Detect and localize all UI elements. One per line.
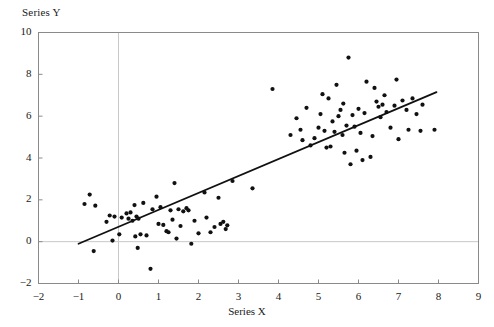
data-point bbox=[382, 93, 386, 97]
data-point bbox=[250, 186, 254, 190]
data-point bbox=[154, 195, 158, 199]
data-point bbox=[328, 144, 332, 148]
data-point bbox=[392, 104, 396, 108]
data-point bbox=[294, 116, 298, 120]
data-point bbox=[318, 112, 322, 116]
data-point bbox=[221, 220, 225, 224]
y-tick-label: 8 bbox=[6, 67, 32, 79]
data-point bbox=[338, 108, 342, 112]
data-point bbox=[288, 133, 292, 137]
x-tick-label: −1 bbox=[66, 290, 92, 302]
data-point bbox=[304, 106, 308, 110]
data-point bbox=[138, 232, 142, 236]
x-tick-label: 9 bbox=[466, 290, 492, 302]
plot-canvas bbox=[0, 0, 494, 327]
data-point bbox=[320, 92, 324, 96]
data-point bbox=[181, 209, 185, 213]
data-point bbox=[352, 125, 356, 129]
data-point bbox=[348, 162, 352, 166]
data-point bbox=[168, 208, 172, 212]
data-point bbox=[189, 242, 193, 246]
data-point bbox=[378, 115, 382, 119]
data-point bbox=[432, 128, 436, 132]
data-point bbox=[158, 205, 162, 209]
data-point bbox=[166, 230, 170, 234]
axis-ticks bbox=[39, 33, 479, 284]
data-point bbox=[404, 108, 408, 112]
data-point bbox=[360, 158, 364, 162]
data-point bbox=[130, 219, 134, 223]
data-point bbox=[346, 56, 350, 60]
data-point bbox=[186, 208, 190, 212]
data-point bbox=[208, 230, 212, 234]
data-point bbox=[330, 119, 334, 123]
data-point bbox=[202, 190, 206, 194]
data-point bbox=[370, 134, 374, 138]
data-point bbox=[364, 80, 368, 84]
data-point bbox=[406, 128, 410, 132]
x-tick-label: 5 bbox=[306, 290, 332, 302]
data-point bbox=[196, 231, 200, 235]
x-tick-label: 6 bbox=[346, 290, 372, 302]
data-point bbox=[172, 181, 176, 185]
x-tick-label: 8 bbox=[426, 290, 452, 302]
data-point bbox=[396, 137, 400, 141]
data-point bbox=[104, 220, 108, 224]
data-point bbox=[362, 111, 366, 115]
data-point bbox=[368, 155, 372, 159]
data-point bbox=[340, 133, 344, 137]
scatter-chart-figure: Series Y Series X −20246810−2−1012345678… bbox=[0, 0, 494, 327]
data-point bbox=[394, 77, 398, 81]
data-point bbox=[326, 96, 330, 100]
data-point bbox=[216, 196, 220, 200]
data-point bbox=[270, 87, 274, 91]
x-tick-label: −2 bbox=[26, 290, 52, 302]
data-point bbox=[178, 224, 182, 228]
data-point bbox=[388, 126, 392, 130]
data-point bbox=[126, 217, 130, 221]
data-point bbox=[156, 222, 160, 226]
data-point bbox=[204, 216, 208, 220]
zero-gridlines bbox=[39, 33, 479, 284]
data-point bbox=[133, 234, 137, 238]
data-point bbox=[112, 214, 116, 218]
data-point bbox=[120, 216, 124, 220]
data-point bbox=[176, 207, 180, 211]
data-point bbox=[308, 143, 312, 147]
x-tick-label: 1 bbox=[146, 290, 172, 302]
data-point bbox=[354, 149, 358, 153]
data-point bbox=[344, 123, 348, 127]
data-point bbox=[136, 246, 140, 250]
data-point bbox=[400, 98, 404, 102]
data-point bbox=[358, 131, 362, 135]
data-point bbox=[212, 225, 216, 229]
data-point bbox=[298, 128, 302, 132]
data-point bbox=[136, 217, 140, 221]
y-tick-label: 0 bbox=[6, 234, 32, 246]
data-point bbox=[82, 202, 86, 206]
y-axis-title: Series Y bbox=[22, 6, 61, 18]
x-tick-label: 4 bbox=[266, 290, 292, 302]
data-point bbox=[376, 105, 380, 109]
data-point bbox=[324, 145, 328, 149]
data-point bbox=[148, 267, 152, 271]
data-point bbox=[150, 207, 154, 211]
data-point bbox=[128, 210, 132, 214]
data-point bbox=[420, 103, 424, 107]
data-point bbox=[336, 114, 340, 118]
data-point bbox=[372, 86, 376, 90]
data-point bbox=[380, 103, 384, 107]
data-point bbox=[132, 203, 136, 207]
data-point bbox=[117, 232, 121, 236]
data-point bbox=[170, 218, 174, 222]
plot-frame bbox=[39, 33, 479, 284]
data-point bbox=[356, 107, 360, 111]
data-point bbox=[225, 223, 229, 227]
data-point bbox=[341, 102, 345, 106]
data-point bbox=[418, 129, 422, 133]
data-point bbox=[92, 249, 96, 253]
data-point bbox=[144, 233, 148, 237]
data-point bbox=[93, 204, 97, 208]
x-tick-label: 3 bbox=[226, 290, 252, 302]
y-tick-label: 10 bbox=[6, 25, 32, 37]
